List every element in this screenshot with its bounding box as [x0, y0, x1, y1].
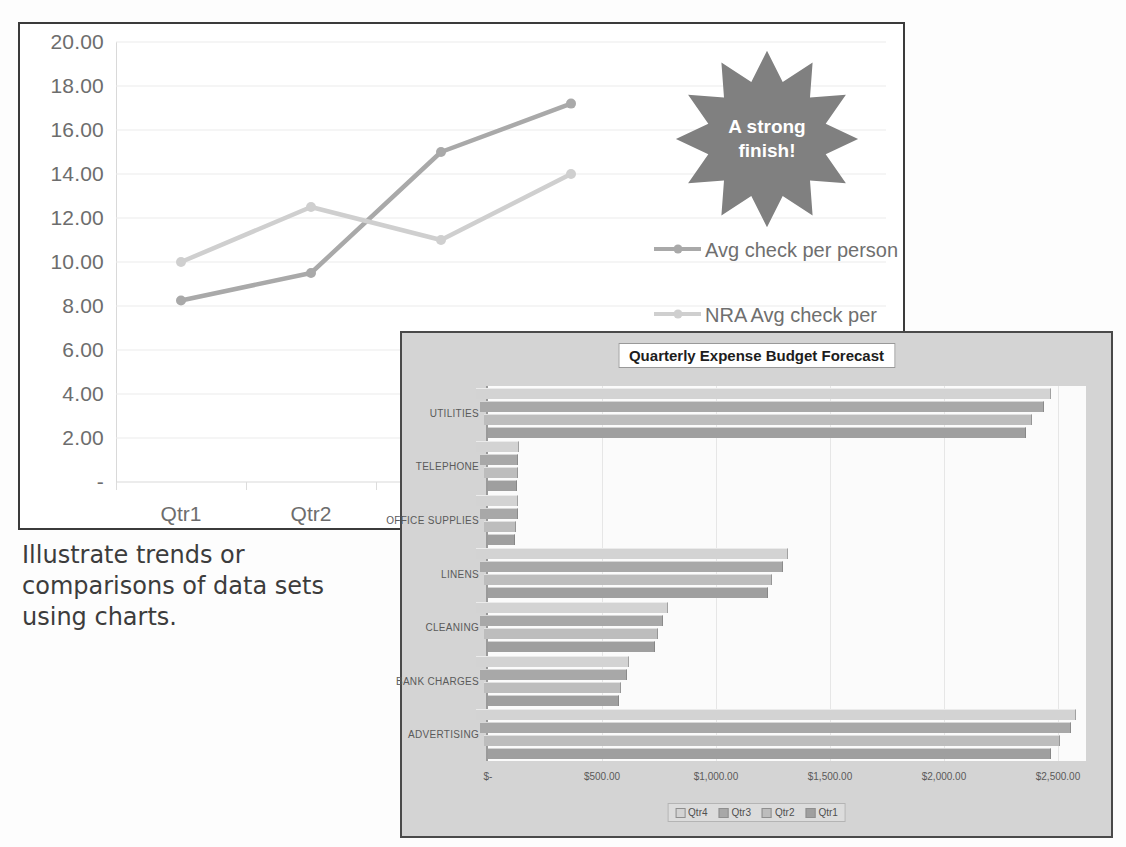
category-label: ADVERTISING	[408, 729, 479, 740]
data-point-marker	[306, 268, 316, 278]
data-point-marker	[306, 202, 316, 212]
bar-group	[488, 707, 1086, 761]
legend-label-avg-check: Avg check per person	[705, 237, 898, 263]
bar[interactable]	[476, 388, 1051, 399]
bar[interactable]	[480, 615, 663, 626]
bar-legend-label: Qtr3	[732, 807, 751, 818]
bar[interactable]	[488, 587, 768, 598]
bar-chart-title: Quarterly Expense Budget Forecast	[618, 343, 895, 368]
bar[interactable]	[488, 748, 1051, 759]
bar[interactable]	[480, 722, 1071, 733]
bar[interactable]	[484, 735, 1060, 746]
bar[interactable]	[476, 548, 788, 559]
bar[interactable]	[488, 480, 517, 491]
legend-swatch-nra-avg-check	[654, 306, 701, 322]
value-tick-label: $1,000.00	[694, 771, 739, 782]
x-tick-mark	[246, 482, 247, 490]
bar-group	[488, 386, 1086, 440]
bar[interactable]	[484, 574, 772, 585]
bar-legend-item[interactable]: Qtr2	[762, 807, 794, 818]
bar[interactable]	[480, 561, 783, 572]
y-tick-label: 16.00	[50, 118, 104, 142]
slide-canvas: 20.0018.0016.0014.0012.0010.008.006.004.…	[0, 0, 1126, 847]
bar-group	[488, 440, 1086, 494]
value-tick-label: $500.00	[584, 771, 620, 782]
y-tick-label: 20.00	[50, 30, 104, 54]
value-tick-label: $2,500.00	[1036, 771, 1081, 782]
y-tick-label: -	[97, 470, 104, 494]
bar-legend-label: Qtr1	[818, 807, 837, 818]
bar-chart-plot-area: UTILITIESTELEPHONEOFFICE SUPPLIESLINENSC…	[486, 386, 1086, 761]
bar-group	[488, 600, 1086, 654]
starburst-shape	[672, 48, 862, 230]
category-label: BANK CHARGES	[396, 675, 479, 686]
bar[interactable]	[488, 695, 619, 706]
category-label: CLEANING	[425, 622, 479, 633]
bar[interactable]	[484, 414, 1032, 425]
bar[interactable]	[476, 441, 519, 452]
caption-text: Illustrate trends or comparisons of data…	[22, 540, 372, 634]
y-tick-label: 4.00	[62, 382, 104, 406]
y-tick-label: 6.00	[62, 338, 104, 362]
line-series	[181, 174, 571, 262]
bar-legend-swatch	[762, 808, 772, 818]
data-point-marker	[436, 235, 446, 245]
bar-group	[488, 547, 1086, 601]
legend-item-avg-check[interactable]: Avg check per person	[654, 237, 898, 263]
bar[interactable]	[476, 709, 1076, 720]
category-label: OFFICE SUPPLIES	[386, 514, 479, 525]
bar[interactable]	[488, 427, 1026, 438]
x-tick-mark	[376, 482, 377, 490]
data-point-marker	[176, 296, 186, 306]
y-tick-label: 8.00	[62, 294, 104, 318]
x-tick-label: Qtr2	[291, 502, 332, 526]
bar[interactable]	[484, 628, 658, 639]
value-tick-label: $2,000.00	[922, 771, 967, 782]
bar-legend-item[interactable]: Qtr1	[805, 807, 837, 818]
bar[interactable]	[476, 656, 629, 667]
y-tick-label: 10.00	[50, 250, 104, 274]
bar[interactable]	[480, 454, 518, 465]
bar-legend-label: Qtr4	[688, 807, 707, 818]
bar[interactable]	[480, 669, 627, 680]
bar-chart-panel: Quarterly Expense Budget Forecast UTILIT…	[400, 331, 1113, 838]
value-tick-label: $1,500.00	[808, 771, 853, 782]
x-tick-label: Qtr1	[161, 502, 202, 526]
data-point-marker	[566, 99, 576, 109]
data-point-marker	[436, 147, 446, 157]
bar-legend-swatch	[805, 808, 815, 818]
value-tick-label: $-	[484, 771, 493, 782]
y-tick-label: 14.00	[50, 162, 104, 186]
category-label: LINENS	[441, 568, 479, 579]
y-tick-label: 2.00	[62, 426, 104, 450]
y-tick-label: 12.00	[50, 206, 104, 230]
bar[interactable]	[484, 521, 516, 532]
bar-group	[488, 493, 1086, 547]
bar[interactable]	[476, 602, 668, 613]
bar-legend-swatch	[675, 808, 685, 818]
starburst-callout: A strong finish!	[672, 48, 862, 230]
bar-legend-label: Qtr2	[775, 807, 794, 818]
category-label: TELEPHONE	[416, 461, 479, 472]
bar-group	[488, 654, 1086, 708]
bar-legend-swatch	[719, 808, 729, 818]
category-label: UTILITIES	[430, 407, 479, 418]
bar[interactable]	[488, 641, 655, 652]
bar[interactable]	[484, 682, 621, 693]
bar[interactable]	[488, 534, 515, 545]
bar[interactable]	[484, 467, 518, 478]
legend-swatch-avg-check	[654, 241, 701, 257]
bar[interactable]	[480, 508, 518, 519]
x-tick-mark	[116, 482, 117, 490]
bar-legend-item[interactable]: Qtr4	[675, 807, 707, 818]
data-point-marker	[176, 257, 186, 267]
data-point-marker	[566, 169, 576, 179]
bar-chart-legend[interactable]: Qtr4Qtr3Qtr2Qtr1	[667, 803, 846, 822]
bar[interactable]	[480, 401, 1044, 412]
bar[interactable]	[476, 495, 518, 506]
bar-legend-item[interactable]: Qtr3	[719, 807, 751, 818]
y-tick-label: 18.00	[50, 74, 104, 98]
